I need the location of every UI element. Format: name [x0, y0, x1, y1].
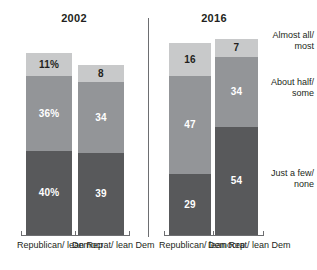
bar-segment-almost-all: 7: [215, 39, 258, 57]
axis-tick: [75, 231, 76, 235]
legend-label-line2: some: [271, 88, 314, 99]
category-label-2002-republican: Republican/ lean Rep: [17, 240, 79, 251]
bar-segment-value: 47: [184, 120, 196, 130]
bar-segment-about-half: 34: [78, 82, 124, 153]
bar-segment-value: 29: [184, 200, 196, 210]
legend-label-line1: About half/: [271, 77, 314, 88]
bar-segment-almost-all: 8: [78, 65, 124, 82]
bar-segment-value: 16: [184, 55, 196, 65]
legend-label-line1: Just a few/: [271, 168, 314, 179]
bar-segment-value: 7: [234, 43, 240, 53]
bar-2002-democrat[interactable]: 8 34 39: [78, 65, 124, 235]
legend-label-line2: none: [271, 179, 314, 190]
stacked-bar-chart: 2002 2016 11% 36% 40% 8 34 39 16 47: [0, 0, 317, 270]
bar-segment-value: 40%: [39, 188, 60, 198]
legend-item-almost-all: Almost all/ most: [272, 30, 314, 52]
bar-segment-just-a-few: 54: [215, 127, 258, 235]
category-label-line1: Republican/: [159, 240, 207, 250]
bar-segment-about-half: 34: [215, 57, 258, 127]
panel-title-2016: 2016: [168, 12, 260, 24]
axis-tick: [213, 231, 214, 235]
bar-segment-value: 34: [231, 87, 243, 97]
axis-tick: [263, 231, 264, 235]
bar-2002-republican[interactable]: 11% 36% 40%: [26, 53, 72, 235]
bar-segment-just-a-few: 40%: [26, 151, 72, 235]
category-label-2002-democrat: Democrat/ lean Dem: [72, 240, 132, 251]
x-axis-left-panel: [21, 235, 130, 236]
legend-label-line1: Almost all/: [272, 30, 314, 41]
bar-segment-just-a-few: 29: [169, 174, 211, 235]
bar-segment-value: 36%: [39, 109, 60, 119]
category-label-line2: lean Dem: [116, 240, 155, 250]
bar-2016-democrat[interactable]: 7 34 54: [215, 39, 258, 235]
bar-segment-about-half: 36%: [26, 76, 72, 151]
axis-tick: [164, 231, 165, 235]
bar-segment-value: 8: [98, 69, 104, 79]
bar-segment-just-a-few: 39: [78, 153, 124, 235]
bar-segment-value: 34: [95, 113, 107, 123]
bar-segment-about-half: 47: [169, 76, 211, 174]
bar-segment-value: 54: [231, 176, 243, 186]
axis-tick: [129, 231, 130, 235]
bar-segment-almost-all: 11%: [26, 53, 72, 76]
panel-title-2002: 2002: [25, 12, 123, 24]
x-axis-right-panel: [164, 235, 264, 236]
bar-segment-value: 11%: [39, 60, 59, 70]
category-label-line1: Democrat/: [208, 240, 250, 250]
category-label-line1: Republican/: [17, 240, 65, 250]
bar-segment-almost-all: 16: [169, 43, 211, 76]
axis-tick: [21, 231, 22, 235]
bar-segment-value: 39: [95, 189, 107, 199]
category-label-line2: lean Dem: [252, 240, 291, 250]
legend-label-line2: most: [272, 41, 314, 52]
bar-2016-republican[interactable]: 16 47 29: [169, 43, 211, 235]
category-label-line1: Democrat/: [72, 240, 114, 250]
legend-item-about-half: About half/ some: [271, 77, 314, 99]
category-label-2016-democrat: Democrat/ lean Dem: [208, 240, 268, 251]
legend-item-just-a-few: Just a few/ none: [271, 168, 314, 190]
panel-divider: [148, 18, 149, 237]
